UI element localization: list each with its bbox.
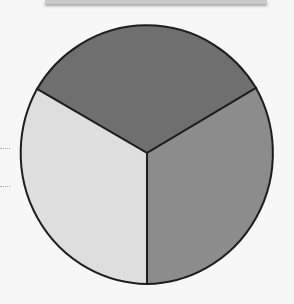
pie-diagram [0, 0, 294, 304]
